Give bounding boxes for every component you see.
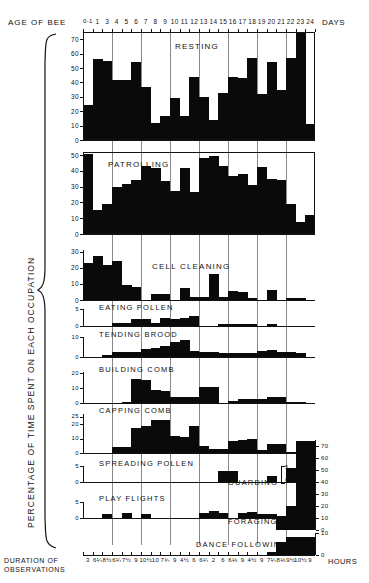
panel-title-cell-cleaning: CELL CLEANING — [152, 262, 230, 271]
bar-dance-following-23 — [305, 537, 315, 555]
ytick-mark-6-25 — [80, 417, 83, 418]
duration-tick-mark-0 — [83, 552, 84, 555]
bar-9-2 — [102, 514, 112, 518]
bar-4-5 — [131, 352, 141, 357]
duration-tick-mark-6 — [141, 552, 142, 555]
bar-foraging-20 — [276, 516, 286, 530]
bar-5-6 — [141, 380, 151, 403]
top-axis-unit: DAYS — [322, 18, 345, 27]
duration-tick-mark-end — [315, 552, 316, 555]
bar-2-10 — [180, 288, 190, 300]
bar-3-16 — [238, 324, 248, 326]
bar-6-4 — [122, 447, 132, 454]
bar-5-17 — [247, 399, 257, 403]
left-brace — [36, 32, 58, 552]
panel-title-play-flights: PLAY FLIGHTS — [99, 494, 166, 503]
bottom-axis-title-line2: OBSERVATIONS — [4, 566, 65, 573]
duration-tick-mark-23 — [305, 552, 306, 555]
ytick-label-6-20: 20 — [59, 421, 79, 427]
bar-9-6 — [141, 514, 151, 518]
bar-5-10 — [180, 397, 190, 403]
bar-2-1 — [93, 256, 103, 300]
bar-6-20 — [276, 444, 286, 453]
ytick-label-4-10: 10 — [59, 334, 79, 340]
bar-4-14 — [218, 353, 228, 357]
panel-title-spreading-pollen: SPREADING POLLEN — [99, 459, 194, 468]
bar-6-6 — [141, 426, 151, 453]
bar-2-12 — [199, 297, 209, 300]
duration-tick-mark-7 — [151, 552, 152, 555]
bar-7-14 — [218, 471, 228, 482]
ytick-label-3-0: 0 — [59, 323, 79, 329]
ytick-label-0-30: 30 — [59, 93, 79, 100]
guarding-scale-min: 0 — [285, 477, 288, 483]
bar-3-17 — [247, 324, 257, 326]
ytick-mark-7-5 — [80, 466, 83, 467]
panel-title-foraging: FORAGING — [228, 517, 278, 526]
bar-4-20 — [276, 352, 286, 357]
ytick-mark-0-0 — [80, 140, 83, 141]
duration-tick-mark-13 — [209, 552, 210, 555]
foraging-ytick-label-40: 40 — [321, 479, 328, 485]
bar-4-6 — [141, 349, 151, 357]
ytick-label-6-25: 25 — [59, 413, 79, 419]
panel-title-dance-following: DANCE FOLLOWING — [196, 540, 287, 549]
bar-2-0 — [83, 263, 93, 300]
yaxis-7 — [83, 466, 84, 482]
panel-title-tending-brood: TENDING BROOD — [99, 330, 178, 339]
ytick-label-5-20: 20 — [59, 370, 79, 376]
ytick-label-2-10: 10 — [59, 280, 79, 287]
ytick-label-0-70: 70 — [59, 36, 79, 43]
ytick-mark-6-10 — [80, 439, 83, 440]
foraging-ytick-label-70: 70 — [321, 443, 328, 449]
bar-6-16 — [238, 440, 248, 453]
duration-tick-mark-21 — [286, 552, 287, 555]
yaxis-9 — [83, 502, 84, 518]
bar-5-21 — [286, 402, 296, 403]
bar-3-4 — [122, 323, 132, 326]
bar-4-19 — [267, 350, 277, 357]
bar-3-11 — [189, 316, 199, 326]
duration-tick-mark-2 — [102, 552, 103, 555]
ytick-label-1-30: 30 — [59, 183, 79, 190]
bar-6-13 — [209, 449, 219, 453]
y-axis-title: PERCENTAGE OF TIME SPENT ON EACH OCCUPAT… — [26, 257, 36, 528]
bar-2-5 — [131, 287, 141, 300]
bar-2-8 — [160, 294, 170, 300]
bar-3-10 — [180, 318, 190, 327]
duration-tick-mark-18 — [257, 552, 258, 555]
bar-foraging-22 — [296, 441, 306, 530]
bar-4-18 — [257, 351, 267, 357]
bar-5-19 — [267, 397, 277, 403]
ytick-label-5-0: 0 — [59, 400, 79, 406]
dance-ytick-label-0: 0 — [321, 552, 325, 558]
bar-5-18 — [257, 399, 267, 403]
ytick-mark-5-10 — [80, 388, 83, 389]
ytick-label-2-30: 30 — [59, 248, 79, 255]
foraging-ytick-40 — [316, 482, 319, 483]
ytick-mark-5-0 — [80, 403, 83, 404]
duration-tick-mark-19 — [267, 552, 268, 555]
duration-tick-mark-12 — [199, 552, 200, 555]
duration-tick-mark-5 — [131, 552, 132, 555]
ytick-label-9-0: 0 — [59, 515, 79, 521]
yaxis-3 — [83, 309, 84, 326]
bar-4-21 — [286, 352, 296, 357]
bar-3-3 — [112, 323, 122, 326]
baseline-cell-cleaning — [83, 300, 315, 301]
foraging-ytick-label-60: 60 — [321, 455, 328, 461]
bar-2-16 — [238, 292, 248, 300]
ytick-mark-4-10 — [80, 337, 83, 338]
duration-tick-mark-3 — [112, 552, 113, 555]
foraging-ytick-label-30: 30 — [321, 491, 328, 497]
baseline-capping-comb — [83, 453, 315, 454]
panel-frame-0 — [83, 32, 315, 140]
duration-tick-mark-15 — [228, 552, 229, 555]
yaxis-6 — [83, 414, 84, 453]
day-tick-mark-end — [315, 29, 316, 32]
ytick-label-0-20: 20 — [59, 108, 79, 115]
duration-tick-mark-17 — [247, 552, 248, 555]
foraging-ytick-70 — [316, 446, 319, 447]
ytick-mark-1-0 — [80, 234, 83, 235]
bar-5-8 — [160, 391, 170, 403]
